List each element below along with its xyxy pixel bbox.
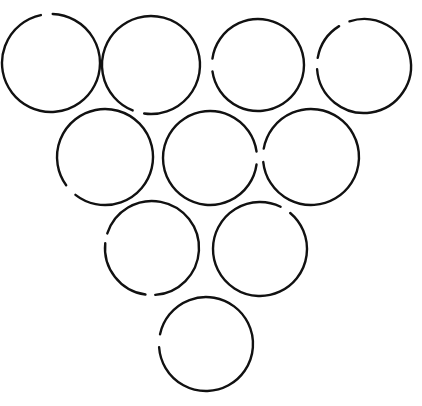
circle-1-arc [2, 14, 100, 112]
circle-10-arc [159, 297, 253, 391]
circle-4-arc [318, 26, 339, 58]
circle-8-arc [107, 201, 199, 295]
circles-group [2, 14, 411, 391]
circle-6-arc [163, 111, 257, 205]
circle-9-arc [213, 202, 307, 296]
circle-2-arc [102, 16, 200, 114]
circle-3-arc [212, 19, 304, 111]
circles-figure [0, 0, 422, 406]
circle-7-arc [263, 109, 359, 205]
figure-canvas [0, 0, 422, 406]
circle-5-arc [57, 109, 153, 205]
circle-8-arc [105, 243, 145, 294]
